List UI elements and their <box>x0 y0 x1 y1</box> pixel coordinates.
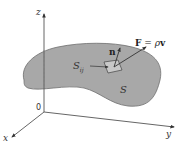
field-label: F = ρv <box>135 38 166 48</box>
x-axis-label: x <box>3 133 8 143</box>
y-axis-label: y <box>165 129 172 139</box>
normal-label-n: n <box>109 47 116 57</box>
x-axis <box>12 112 44 137</box>
field-label-eq: = <box>141 38 154 48</box>
y-axis <box>44 112 174 127</box>
origin-label: 0 <box>36 103 41 112</box>
z-axis-label: z <box>35 7 41 17</box>
surface-label-S: S <box>120 84 127 95</box>
surface-flux-diagram: z y x 0 S Sij n F = ρv <box>0 0 181 157</box>
field-label-v: v <box>159 38 166 48</box>
patch-label-sub: ij <box>80 66 84 74</box>
